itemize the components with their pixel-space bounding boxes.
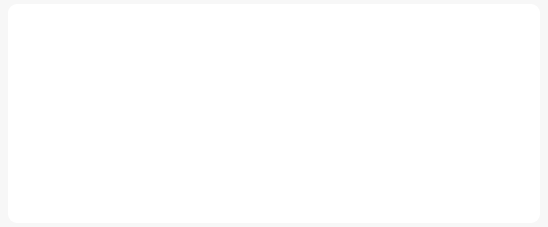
figure-card [8,4,540,223]
chart-container: 0510152025 18401860188019001920194019601… [0,0,548,227]
